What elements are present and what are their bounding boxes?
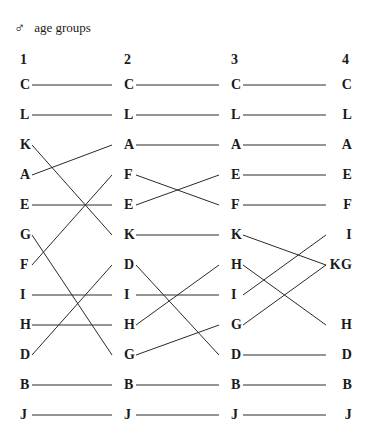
connector-G-seg3	[243, 265, 326, 325]
node-label-c3-r10: D	[231, 347, 241, 363]
node-label-c4-r11: B	[342, 377, 352, 393]
bump-chart-canvas: ♂ age groups 1234 CLKAEGFIHDBJCLAFEKDIHG…	[0, 0, 366, 436]
node-label-c4-r2: L	[342, 107, 352, 123]
chart-header: ♂ age groups	[14, 20, 91, 36]
node-label-c1-r10: D	[20, 347, 30, 363]
node-label-c2-r9: H	[124, 317, 135, 333]
node-label-c2-r6: K	[124, 227, 135, 243]
node-label-c3-r6: K	[231, 227, 242, 243]
node-label-c4-r5: F	[343, 197, 352, 213]
connector-K-seg3	[243, 235, 326, 265]
node-label-c1-r11: B	[20, 377, 30, 393]
connector-G-seg1	[32, 235, 112, 355]
node-label-c1-r12: J	[20, 407, 27, 423]
connector-lines-layer	[0, 0, 366, 436]
node-label-c1-r1: C	[20, 77, 30, 93]
node-label-c2-r12: J	[124, 407, 131, 423]
node-label-c1-r6: G	[20, 227, 31, 243]
node-label-c2-r4: F	[124, 167, 133, 183]
node-label-c3-r7: H	[231, 257, 242, 273]
node-label-c1-r4: A	[20, 167, 30, 183]
node-label-c3-r3: A	[231, 137, 241, 153]
node-label-c4-r6: I	[346, 227, 352, 243]
node-label-c1-r2: L	[20, 107, 30, 123]
node-label-c4-r10: D	[342, 347, 352, 363]
node-label-c2-r2: L	[124, 107, 134, 123]
node-label-c1-r5: E	[20, 197, 30, 213]
connector-E-seg2	[136, 175, 219, 205]
column-header-3: 3	[231, 52, 238, 68]
node-label-c2-r5: E	[124, 197, 134, 213]
node-label-c3-r12: J	[231, 407, 238, 423]
node-label-c1-r9: H	[20, 317, 31, 333]
node-label-c3-r11: B	[231, 377, 241, 393]
male-symbol-icon: ♂	[14, 21, 25, 36]
node-label-c4-r4: E	[342, 167, 352, 183]
node-label-c3-r5: F	[231, 197, 240, 213]
node-label-c1-r3: K	[20, 137, 31, 153]
connector-H-seg2	[136, 265, 219, 325]
connector-H-seg3	[243, 265, 326, 325]
node-label-c3-r2: L	[231, 107, 241, 123]
column-header-1: 1	[20, 52, 27, 68]
connector-D-seg2	[136, 265, 219, 355]
node-label-c4-r1: C	[342, 77, 352, 93]
node-label-c2-r1: C	[124, 77, 134, 93]
node-label-c1-r7: F	[20, 257, 29, 273]
node-label-c2-r7: D	[124, 257, 134, 273]
node-label-c3-r4: E	[231, 167, 241, 183]
node-label-c4-r3: A	[342, 137, 352, 153]
connector-I-seg3	[243, 235, 326, 295]
connector-F-seg1	[32, 175, 112, 265]
node-label-c2-r11: B	[124, 377, 134, 393]
node-label-c3-r8: I	[231, 287, 237, 303]
node-label-c3-r9: G	[231, 317, 242, 333]
chart-title: age groups	[34, 20, 91, 36]
connector-D-seg1	[32, 265, 112, 355]
node-label-c4-r12: J	[345, 407, 352, 423]
connector-G-seg2	[136, 325, 219, 355]
node-label-c2-r8: I	[124, 287, 130, 303]
node-label-c1-r8: I	[20, 287, 26, 303]
node-label-c2-r10: G	[124, 347, 135, 363]
connector-K-seg1	[32, 145, 112, 235]
connector-F-seg2	[136, 175, 219, 205]
node-label-c3-r1: C	[231, 77, 241, 93]
node-label-c4-r9: H	[341, 317, 352, 333]
node-label-c4-r7: KG	[330, 257, 352, 273]
column-header-2: 2	[124, 52, 131, 68]
node-label-c2-r3: A	[124, 137, 134, 153]
column-header-4: 4	[342, 52, 349, 68]
connector-A-seg1	[32, 145, 112, 175]
